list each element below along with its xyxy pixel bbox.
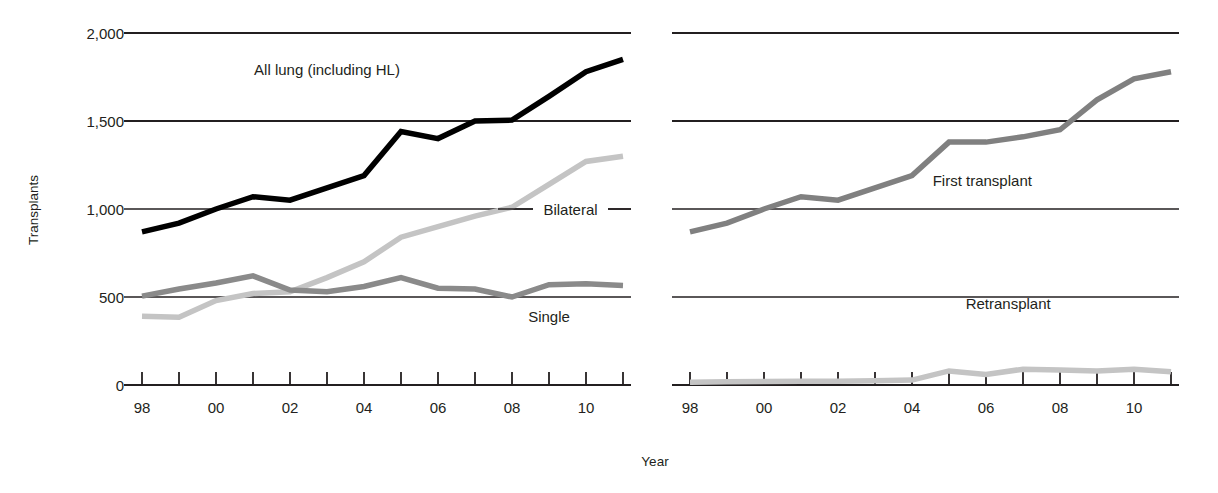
x-tick-label-right-98: 98	[682, 399, 699, 416]
y-tick-label-2000: 2,000	[86, 25, 124, 42]
y-tick-label-1500: 1,500	[86, 113, 124, 130]
x-tick-label-left-98: 98	[134, 399, 151, 416]
series-label-all-lung-including-hl: All lung (including HL)	[254, 61, 400, 78]
two-panel-line-chart: 05001,0001,5002,000980002040608109800020…	[0, 0, 1218, 493]
axes	[124, 372, 1179, 385]
series-line-first-transplant	[690, 72, 1171, 232]
x-tick-label-left-02: 02	[282, 399, 299, 416]
x-tick-label-left-08: 08	[504, 399, 521, 416]
series-label-first-transplant: First transplant	[933, 172, 1033, 189]
y-tick-label-1000: 1,000	[86, 201, 124, 218]
x-tick-label-right-10: 10	[1126, 399, 1143, 416]
x-axis-title: Year	[641, 454, 669, 469]
series-line-single	[142, 276, 623, 297]
x-tick-label-left-00: 00	[208, 399, 225, 416]
series-line-retransplant	[690, 369, 1171, 382]
series-label-single: Single	[528, 308, 570, 325]
y-axis-title: Transplants	[26, 175, 41, 245]
figure-root: 05001,0001,5002,000980002040608109800020…	[0, 0, 1218, 493]
x-tick-label-right-08: 08	[1052, 399, 1069, 416]
series-line-bilateral	[142, 156, 623, 317]
x-tick-label-left-10: 10	[578, 399, 595, 416]
series-lines	[142, 59, 1171, 382]
series-label-retransplant: Retransplant	[966, 295, 1052, 312]
x-tick-label-right-06: 06	[978, 399, 995, 416]
x-tick-label-left-06: 06	[430, 399, 447, 416]
x-tick-labels: 9800020406081098000204060810	[134, 399, 1143, 416]
bilateral-label-text: Bilateral	[543, 201, 597, 218]
x-tick-label-right-00: 00	[756, 399, 773, 416]
y-tick-labels: 05001,0001,5002,000	[86, 25, 124, 394]
x-tick-label-left-04: 04	[356, 399, 373, 416]
x-tick-label-right-04: 04	[904, 399, 921, 416]
y-tick-label-500: 500	[99, 289, 124, 306]
x-tick-label-right-02: 02	[830, 399, 847, 416]
y-tick-label-0: 0	[116, 377, 124, 394]
